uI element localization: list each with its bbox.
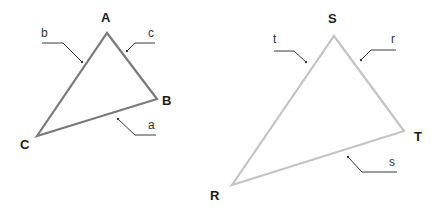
triangle-abc-outline [37,33,157,136]
vertex-label-b: B [162,93,171,108]
leader-line-b [42,43,82,62]
triangle-abc: A B C b c a [20,10,171,152]
leader-dot-s [347,156,349,158]
side-label-s: s [389,155,395,169]
triangle-rst: S T R t r s [210,11,422,203]
triangle-rst-outline [232,36,404,185]
leader-dot-r [360,59,362,61]
side-label-r: r [391,32,395,46]
side-label-t: t [273,32,277,46]
leader-line-c [127,43,155,51]
vertex-label-a: A [101,10,111,25]
vertex-label-c: C [20,137,30,152]
vertex-label-s: S [328,11,337,26]
leader-dot-t [305,61,307,63]
leader-dot-c [126,50,128,52]
side-label-b: b [41,26,48,40]
leader-dot-b [81,61,83,63]
leader-dot-a [117,118,119,120]
vertex-label-r: R [210,188,220,203]
vertex-label-t: T [414,129,422,144]
leader-line-r [361,50,396,60]
side-label-a: a [148,118,155,132]
side-label-c: c [148,26,154,40]
triangles-diagram: A B C b c a S T R t r s [0,0,445,211]
leader-line-t [274,51,306,62]
